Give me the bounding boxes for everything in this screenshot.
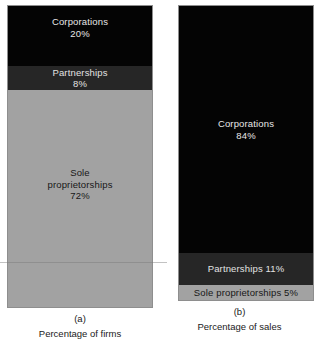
segment-label-sole-line2-a: proprietorships (47, 179, 112, 191)
caption-a-label: (a) (0, 312, 160, 326)
caption-a-title: Percentage of firms (0, 327, 160, 341)
segment-label-corporations-b: Corporations (218, 118, 274, 130)
caption-b-label: (b) (160, 305, 319, 319)
segment-corporations-b: Corporations 84% (179, 6, 313, 253)
segment-corporations-a: Corporations 20% (8, 6, 152, 66)
stacked-bar-b: Corporations 84% Partnerships 11% Sole p… (178, 5, 314, 301)
segment-value-corporations-b: 84% (236, 130, 255, 142)
segment-label-partnerships-a: Partnerships (52, 67, 107, 79)
caption-a: (a) Percentage of firms (0, 312, 160, 341)
caption-b: (b) Percentage of sales (160, 305, 319, 334)
segment-label-sole-line1-a: Sole (70, 167, 90, 179)
segment-value-corporations-a: 20% (70, 28, 89, 40)
segment-partnerships-a: Partnerships 8% (8, 66, 152, 90)
stacked-bar-a: Corporations 20% Partnerships 8% Sole pr… (7, 5, 153, 308)
segment-value-partnerships-a: 8% (73, 78, 87, 90)
segment-sole-proprietorships-a: Sole proprietorships 72% (8, 90, 152, 307)
segment-value-sole-a: 72% (70, 190, 89, 202)
segment-sole-proprietorships-b: Sole proprietorships 5% (179, 285, 313, 300)
segment-label-partnerships-b: Partnerships 11% (208, 263, 285, 275)
caption-b-title: Percentage of sales (160, 320, 319, 334)
segment-partnerships-b: Partnerships 11% (179, 253, 313, 285)
stacked-bar-figure: Corporations 20% Partnerships 8% Sole pr… (0, 0, 319, 345)
segment-label-sole-b: Sole proprietorships 5% (194, 287, 298, 299)
panel-b-percentage-of-sales: Corporations 84% Partnerships 11% Sole p… (160, 0, 319, 345)
segment-label-corporations-a: Corporations (52, 16, 108, 28)
panel-a-percentage-of-firms: Corporations 20% Partnerships 8% Sole pr… (0, 0, 160, 345)
